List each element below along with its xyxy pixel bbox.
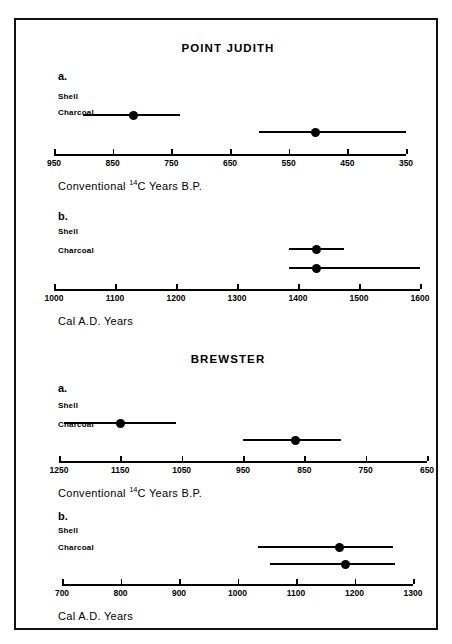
axis-title-suffix: C Years B.P. [138, 180, 203, 192]
axis-tick [237, 284, 239, 289]
axis-tick-label: 1250 [39, 465, 79, 475]
axis-tick [54, 284, 56, 289]
axis-tick-label: 1100 [276, 588, 316, 598]
range-bar-charcoal [289, 267, 420, 269]
axis-tick-label: 650 [210, 158, 250, 168]
range-marker-shell [129, 111, 138, 120]
axis-tick-label: 1600 [400, 293, 440, 303]
axis-tick-label: 900 [159, 588, 199, 598]
axis-tick [366, 456, 368, 461]
plot-area: 7008009001000110012001300 [16, 510, 440, 644]
axis-tick-label: 350 [386, 158, 426, 168]
range-marker-shell [312, 245, 321, 254]
axis-tick [54, 149, 56, 154]
axis-tick [355, 579, 357, 584]
range-bar-shell [289, 248, 344, 250]
axis-tick-label: 700 [42, 588, 82, 598]
range-bar-shell [83, 114, 180, 116]
axis-tick [406, 149, 408, 154]
axis-tick [176, 284, 178, 289]
range-marker-charcoal [312, 264, 321, 273]
axis-tick-label: 750 [151, 158, 191, 168]
axis-tick [62, 579, 64, 584]
axis-tick-label: 1200 [335, 588, 375, 598]
axis-title-suffix: C Years B.P. [138, 487, 203, 499]
range-bar-charcoal [259, 131, 406, 133]
axis-line [62, 584, 413, 586]
axis-tick-label: 1150 [100, 465, 140, 475]
axis-tick [296, 579, 298, 584]
group-title-brewster: BREWSTER [16, 353, 440, 365]
axis-tick [238, 579, 240, 584]
axis-tick [289, 149, 291, 154]
axis-tick [182, 456, 184, 461]
range-bar-shell [258, 546, 393, 548]
range-marker-charcoal [291, 436, 300, 445]
panel-brewster-calibrated: b. Shell Charcoal 7008009001000110012001… [16, 510, 440, 644]
group-title-point-judith: POINT JUDITH [16, 42, 440, 54]
axis-title-prefix: Conventional [58, 487, 129, 499]
axis-title: Conventional 14C Years B.P. [58, 178, 202, 192]
range-marker-shell [116, 419, 125, 428]
axis-tick [230, 149, 232, 154]
range-bar-charcoal [270, 563, 396, 565]
axis-title-superscript: 14 [129, 485, 137, 494]
panel-brewster-conventional: a. Shell Charcoal 1250115010509508507506… [16, 382, 440, 522]
caption-text: charcoal dates. [3, 0, 59, 2]
axis-tick [359, 284, 361, 289]
axis-line [54, 289, 420, 291]
axis-tick [121, 579, 123, 584]
range-marker-charcoal [311, 128, 320, 137]
figure-caption-strip: charcoal dates. [0, 0, 452, 14]
axis-tick [298, 284, 300, 289]
axis-tick-label: 1000 [34, 293, 74, 303]
plot-area: 1000110012001300140015001600 [16, 210, 440, 350]
axis-tick-label: 450 [327, 158, 367, 168]
axis-tick [413, 579, 415, 584]
axis-tick [171, 149, 173, 154]
figure-frame: POINT JUDITH BREWSTER a. Shell Charcoal … [14, 18, 438, 630]
axis-tick [179, 579, 181, 584]
axis-tick-label: 1500 [339, 293, 379, 303]
range-bar-charcoal [243, 439, 341, 441]
axis-tick-label: 1200 [156, 293, 196, 303]
axis-tick [427, 456, 429, 461]
axis-line [59, 461, 427, 463]
axis-tick-label: 850 [93, 158, 133, 168]
axis-tick-label: 950 [34, 158, 74, 168]
axis-tick-label: 1000 [218, 588, 258, 598]
axis-tick-label: 800 [101, 588, 141, 598]
axis-title-prefix: Cal A.D. Years [58, 610, 133, 622]
axis-tick-label: 1050 [162, 465, 202, 475]
axis-tick [120, 456, 122, 461]
range-marker-charcoal [341, 560, 350, 569]
axis-title: Cal A.D. Years [58, 313, 133, 327]
axis-title-superscript: 14 [129, 178, 137, 187]
axis-tick-label: 1400 [278, 293, 318, 303]
panel-point-judith-conventional: a. Shell Charcoal 950850750650550450350 … [16, 70, 440, 210]
range-bar-shell [64, 422, 176, 424]
axis-tick-label: 750 [346, 465, 386, 475]
range-marker-shell [335, 543, 344, 552]
axis-tick-label: 550 [269, 158, 309, 168]
axis-line [54, 154, 406, 156]
axis-tick [420, 284, 422, 289]
axis-title-prefix: Cal A.D. Years [58, 315, 133, 327]
axis-tick [113, 149, 115, 154]
axis-tick [304, 456, 306, 461]
axis-title-prefix: Conventional [58, 180, 129, 192]
axis-title: Conventional 14C Years B.P. [58, 485, 202, 499]
axis-tick-label: 950 [223, 465, 263, 475]
axis-tick [243, 456, 245, 461]
axis-tick [347, 149, 349, 154]
axis-tick-label: 1300 [217, 293, 257, 303]
axis-tick [59, 456, 61, 461]
plot-area: 125011501050950850750650 [16, 382, 440, 522]
panel-point-judith-calibrated: b. Shell Charcoal 1000110012001300140015… [16, 210, 440, 350]
axis-tick-label: 1100 [95, 293, 135, 303]
axis-tick [115, 284, 117, 289]
axis-title: Cal A.D. Years [58, 608, 133, 622]
axis-tick-label: 1300 [393, 588, 433, 598]
axis-tick-label: 850 [284, 465, 324, 475]
axis-tick-label: 650 [407, 465, 447, 475]
